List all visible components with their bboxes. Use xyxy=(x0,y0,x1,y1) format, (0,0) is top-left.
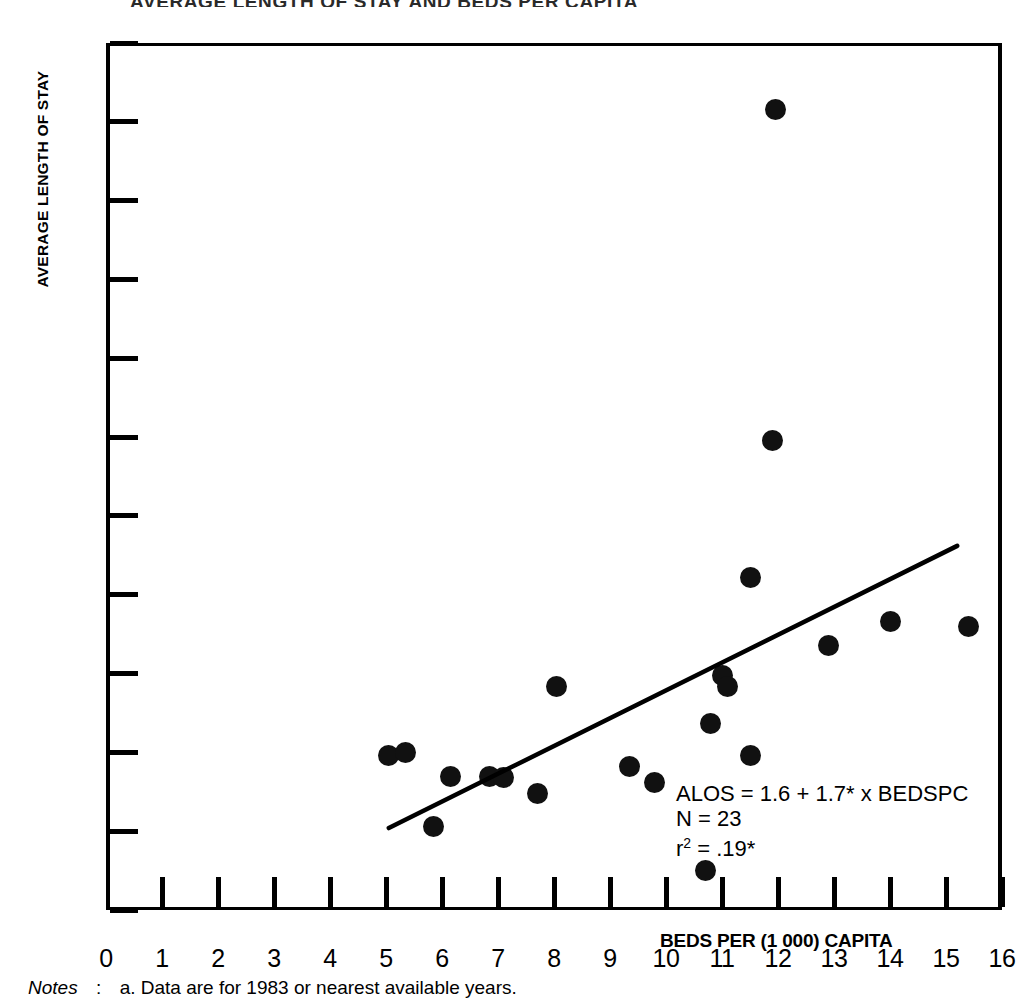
x-axis-tick-label: 5 xyxy=(356,944,416,973)
x-axis-tick xyxy=(664,877,669,907)
annotation-n: N = 23 xyxy=(676,806,968,831)
y-axis-title: AVERAGE LENGTH OF STAY xyxy=(34,39,52,319)
x-axis-tick xyxy=(328,877,333,907)
y-axis-tick xyxy=(110,356,138,361)
notes-row: Notes:a. Data are for 1983 or nearest av… xyxy=(28,977,517,999)
x-axis-tick-label: 4 xyxy=(300,944,360,973)
y-axis-tick xyxy=(110,119,138,124)
x-axis-tick xyxy=(608,877,613,907)
scatter-point xyxy=(440,766,461,787)
y-axis-tick xyxy=(110,750,138,755)
scatter-point xyxy=(958,616,979,637)
x-axis-tick-label: 1 xyxy=(132,944,192,973)
plot-area: 51015202530354045505560 0123456789101112… xyxy=(106,43,1002,910)
scatter-point xyxy=(695,860,716,881)
x-axis-title: BEDS PER (1 000) CAPITA xyxy=(660,930,893,952)
y-axis-tick xyxy=(110,513,138,518)
x-axis-tick xyxy=(216,877,221,907)
x-axis-tick xyxy=(776,877,781,907)
x-axis-tick xyxy=(944,877,949,907)
y-axis-tick xyxy=(110,41,138,46)
x-axis-tick xyxy=(720,877,725,907)
scatter-point xyxy=(527,783,548,804)
x-axis-tick-label: 16 xyxy=(972,944,1032,973)
x-axis-tick-label: 2 xyxy=(188,944,248,973)
scatter-point xyxy=(740,745,761,766)
axis-line-left xyxy=(106,43,110,910)
x-axis-tick xyxy=(384,877,389,907)
x-axis-tick xyxy=(888,877,893,907)
r-value: = .19* xyxy=(691,836,755,861)
chart-title: AVERAGE LENGTH OF STAY AND BEDS PER CAPI… xyxy=(130,0,750,7)
x-axis-tick xyxy=(496,877,501,907)
x-axis-tick xyxy=(160,877,165,907)
scatter-point xyxy=(395,742,416,763)
x-axis-tick-label: 15 xyxy=(916,944,976,973)
scatter-point xyxy=(717,676,738,697)
scatter-point xyxy=(546,676,567,697)
y-axis-tick xyxy=(110,592,138,597)
y-axis-tick xyxy=(110,435,138,440)
r-exponent: 2 xyxy=(683,835,691,851)
x-axis-tick-label: 8 xyxy=(524,944,584,973)
scatter-point xyxy=(423,816,444,837)
x-axis-tick-label: 3 xyxy=(244,944,304,973)
regression-annotation: ALOS = 1.6 + 1.7* x BEDSPC N = 23 r2 = .… xyxy=(676,781,968,861)
y-axis-tick xyxy=(110,671,138,676)
annotation-r-squared: r2 = .19* xyxy=(676,831,968,861)
x-axis-tick-label: 9 xyxy=(580,944,640,973)
scatter-point xyxy=(818,635,839,656)
x-axis-tick-label: 7 xyxy=(468,944,528,973)
x-axis-tick-label: 6 xyxy=(412,944,472,973)
y-axis-tick xyxy=(110,908,138,913)
x-axis-tick xyxy=(440,877,445,907)
annotation-equation: ALOS = 1.6 + 1.7* x BEDSPC xyxy=(676,781,968,806)
scatter-point xyxy=(700,713,721,734)
notes-label: Notes xyxy=(28,977,78,998)
y-axis-tick xyxy=(110,198,138,203)
scatter-point xyxy=(493,767,514,788)
x-axis-tick xyxy=(1000,877,1005,907)
chart-page: AVERAGE LENGTH OF STAY AND BEDS PER CAPI… xyxy=(0,0,1033,1005)
x-axis-tick-label: 0 xyxy=(76,944,136,973)
x-axis-tick xyxy=(552,877,557,907)
scatter-point xyxy=(765,99,786,120)
scatter-point xyxy=(880,611,901,632)
notes-colon: : xyxy=(78,977,120,999)
scatter-point xyxy=(762,430,783,451)
x-axis-tick xyxy=(272,877,277,907)
scatter-point xyxy=(644,772,665,793)
scatter-point xyxy=(619,756,640,777)
axis-line-right xyxy=(998,43,1002,910)
scatter-point xyxy=(740,567,761,588)
axis-line-top xyxy=(106,43,1002,46)
notes-text: a. Data are for 1983 or nearest availabl… xyxy=(120,977,517,998)
axis-line-bottom xyxy=(106,907,1002,910)
x-axis-tick xyxy=(832,877,837,907)
y-axis-tick xyxy=(110,829,138,834)
y-axis-tick xyxy=(110,277,138,282)
